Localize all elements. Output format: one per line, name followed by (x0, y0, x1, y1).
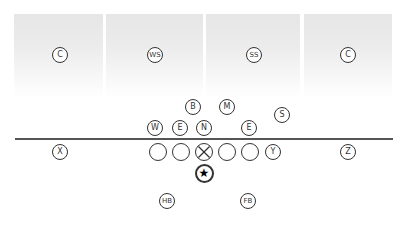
defender-will: W (147, 120, 163, 136)
defender-weak-safety: WS (147, 47, 163, 63)
defender-corner-left: C (52, 47, 68, 63)
defender-end-left: E (172, 120, 188, 136)
defender-mike: M (219, 99, 235, 115)
defender-backer: B (185, 99, 201, 115)
receiver-x: X (52, 144, 68, 160)
line-of-scrimmage (15, 138, 393, 140)
defender-nose: N (196, 120, 212, 136)
defender-corner-right: C (340, 47, 356, 63)
quarterback-star-icon: ★ (195, 164, 214, 183)
receiver-y: Y (265, 144, 281, 160)
offensive-lineman-left-tackle (149, 143, 167, 161)
offensive-lineman-right-tackle (241, 143, 259, 161)
center-x-icon (196, 144, 212, 160)
receiver-z: Z (340, 144, 356, 160)
offensive-lineman-left-guard (172, 143, 190, 161)
defender-end-right: E (241, 120, 257, 136)
defender-strong-safety: SS (246, 47, 262, 63)
offensive-lineman-center (195, 143, 213, 161)
fullback: FB (240, 193, 256, 209)
defender-sam: S (274, 107, 290, 123)
offensive-lineman-right-guard (218, 143, 236, 161)
halfback: HB (159, 193, 175, 209)
